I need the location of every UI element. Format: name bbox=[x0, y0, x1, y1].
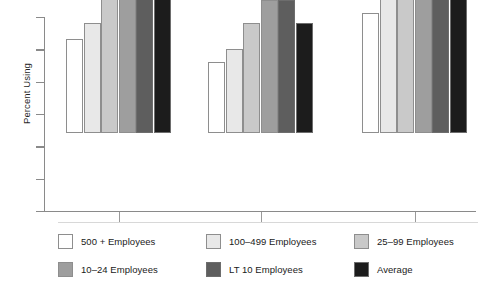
legend-item[interactable]: Average bbox=[354, 258, 413, 280]
bar-group bbox=[208, 0, 313, 133]
plot-area: Percent Using bbox=[0, 0, 488, 216]
bar bbox=[450, 0, 467, 133]
y-axis-tick bbox=[36, 82, 45, 83]
bar-chart-figure: Percent Using 500 + Employees100–499 Emp… bbox=[0, 0, 488, 294]
legend-label: 500 + Employees bbox=[81, 236, 155, 247]
legend-item[interactable]: 10–24 Employees bbox=[58, 258, 158, 280]
legend-item[interactable]: LT 10 Employees bbox=[206, 258, 303, 280]
legend-swatch bbox=[58, 234, 73, 249]
legend-swatch bbox=[206, 262, 221, 277]
bar bbox=[208, 62, 225, 133]
bar bbox=[226, 49, 243, 133]
bar bbox=[243, 23, 260, 133]
bar bbox=[119, 0, 136, 133]
bar-group bbox=[362, 0, 467, 133]
legend-swatch bbox=[206, 234, 221, 249]
legend-swatch bbox=[58, 262, 73, 277]
bar-group bbox=[66, 0, 171, 133]
bar bbox=[84, 23, 101, 133]
legend-label: 100–499 Employees bbox=[229, 236, 316, 247]
legend-divider bbox=[58, 222, 478, 223]
y-axis-tick bbox=[36, 17, 45, 18]
y-axis-tick bbox=[36, 146, 45, 147]
legend-item[interactable]: 500 + Employees bbox=[58, 230, 155, 252]
bar bbox=[101, 0, 118, 133]
legend-swatch bbox=[354, 234, 369, 249]
x-axis-line bbox=[36, 211, 476, 212]
legend-swatch bbox=[354, 262, 369, 277]
chart-legend: 500 + Employees100–499 Employees25–99 Em… bbox=[58, 222, 478, 288]
bar bbox=[261, 0, 278, 133]
legend-label: Average bbox=[377, 264, 413, 275]
bar bbox=[66, 39, 83, 133]
bar bbox=[296, 23, 313, 133]
bar bbox=[415, 0, 432, 133]
bar bbox=[154, 0, 171, 133]
legend-row: 500 + Employees100–499 Employees25–99 Em… bbox=[58, 230, 478, 252]
bar bbox=[380, 0, 397, 133]
y-axis-tick bbox=[36, 114, 45, 115]
y-axis-title: Percent Using bbox=[21, 24, 32, 164]
y-axis-tick bbox=[36, 49, 45, 50]
legend-label: 25–99 Employees bbox=[377, 236, 454, 247]
bar bbox=[397, 0, 414, 133]
legend-label: LT 10 Employees bbox=[229, 264, 303, 275]
bar bbox=[136, 0, 153, 133]
bar bbox=[362, 13, 379, 133]
bar bbox=[278, 0, 295, 133]
legend-item[interactable]: 100–499 Employees bbox=[206, 230, 316, 252]
bar bbox=[432, 0, 449, 133]
y-axis-tick bbox=[36, 179, 45, 180]
legend-label: 10–24 Employees bbox=[81, 264, 158, 275]
legend-row: 10–24 EmployeesLT 10 EmployeesAverage bbox=[58, 258, 478, 280]
y-axis-tick bbox=[36, 211, 45, 212]
legend-item[interactable]: 25–99 Employees bbox=[354, 230, 454, 252]
